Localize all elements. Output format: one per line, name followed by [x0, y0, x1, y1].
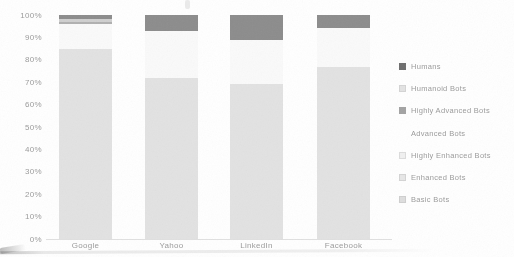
legend-label: Basic Bots [411, 195, 449, 204]
bar-google [59, 15, 112, 239]
stacked-bar-chart-figure: 100% 90% 80% 70% 60% 50% 40% 30% 20% 10%… [0, 0, 514, 257]
chart-legend: Humans Humanoid Bots Highly Advanced Bot… [399, 55, 491, 211]
legend-item-highly-advanced-bots: Highly Advanced Bots [399, 100, 491, 122]
plot-area [48, 15, 390, 239]
legend-label: Advanced Bots [411, 129, 465, 138]
y-axis-tick-label: 80% [25, 55, 42, 64]
bar-segment-humans [317, 15, 370, 28]
y-axis-tick-label: 60% [25, 100, 42, 109]
y-axis-tick-label: 40% [25, 145, 42, 154]
legend-marker-icon [399, 130, 406, 137]
bar-segment-humans [145, 15, 198, 31]
legend-label: Humanoid Bots [411, 84, 466, 93]
legend-label: Highly Enhanced Bots [411, 151, 491, 160]
scan-smudge-artifact [185, 0, 190, 9]
x-axis-label-linkedin: LinkedIn [230, 241, 283, 250]
bar-segment-advanced-bots [230, 40, 283, 85]
bar-segment-advanced-bots [145, 31, 198, 78]
bar-segment-advanced-bots [59, 24, 112, 49]
y-axis-tick-label: 70% [25, 78, 42, 87]
bar-facebook [317, 15, 370, 239]
x-axis-label-yahoo: Yahoo [145, 241, 198, 250]
y-axis-tick-label: 20% [25, 190, 42, 199]
legend-item-highly-enhanced-bots: Highly Enhanced Bots [399, 144, 491, 166]
y-axis-tick-label: 10% [25, 212, 42, 221]
y-axis-tick-label: 90% [25, 33, 42, 42]
legend-item-humans: Humans [399, 55, 491, 77]
bar-segment-basic-bots [145, 78, 198, 239]
legend-label: Enhanced Bots [411, 173, 466, 182]
x-axis-label-google: Google [59, 241, 112, 250]
y-axis-tick-label: 50% [25, 123, 42, 132]
y-axis: 100% 90% 80% 70% 60% 50% 40% 30% 20% 10%… [0, 15, 42, 239]
bar-segment-basic-bots [317, 67, 370, 239]
legend-marker-icon [399, 107, 406, 114]
legend-item-humanoid-bots: Humanoid Bots [399, 77, 491, 99]
legend-marker-icon [399, 152, 406, 159]
legend-marker-icon [399, 174, 406, 181]
legend-marker-icon [399, 85, 406, 92]
legend-item-basic-bots: Basic Bots [399, 189, 491, 211]
bar-segment-humans [230, 15, 283, 40]
legend-label: Humans [411, 62, 441, 71]
bar-segment-basic-bots [230, 84, 283, 239]
bar-segment-basic-bots [59, 49, 112, 239]
legend-marker-icon [399, 63, 406, 70]
bar-segment-advanced-bots [317, 28, 370, 66]
y-axis-tick-label: 100% [20, 11, 42, 20]
legend-item-enhanced-bots: Enhanced Bots [399, 166, 491, 188]
y-axis-tick-label: 0% [30, 235, 42, 244]
x-axis-line [46, 239, 392, 240]
legend-item-advanced-bots: Advanced Bots [399, 122, 491, 144]
legend-marker-icon [399, 196, 406, 203]
bar-yahoo [145, 15, 198, 239]
y-axis-tick-label: 30% [25, 167, 42, 176]
bar-linkedin [230, 15, 283, 239]
legend-label: Highly Advanced Bots [411, 106, 490, 115]
